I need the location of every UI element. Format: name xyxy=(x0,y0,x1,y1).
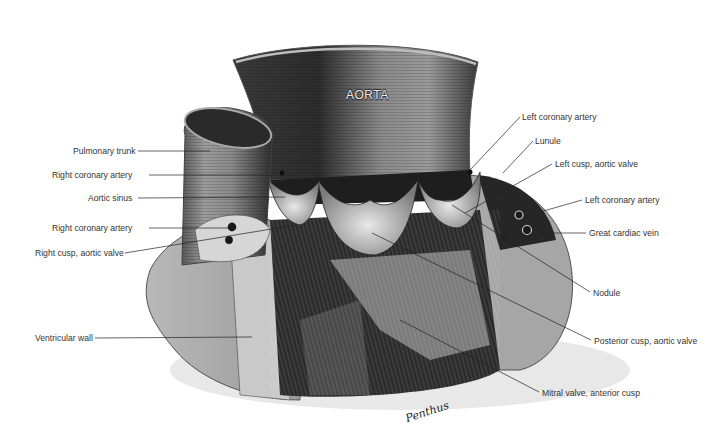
label-ventricular-wall: Ventricular wall xyxy=(35,333,93,343)
right-coronary-vessel-section xyxy=(225,236,234,245)
label-lunule: Lunule xyxy=(535,136,561,146)
left-coronary-ostium xyxy=(468,170,473,175)
left-coronary-artery-section xyxy=(515,211,523,219)
label-mitral-valve-anterior-cusp: Mitral valve, anterior cusp xyxy=(542,388,640,398)
label-nodule: Nodule xyxy=(593,288,620,298)
aorta-title: AORTA xyxy=(346,88,389,102)
great-cardiac-vein-section xyxy=(523,226,532,235)
label-great-cardiac-vein: Great cardiac vein xyxy=(589,228,659,238)
label-left-coronary-artery-upper: Left coronary artery xyxy=(522,112,597,122)
label-right-coronary-artery-upper: Right coronary artery xyxy=(52,170,132,180)
right-coronary-ostium xyxy=(280,171,285,176)
label-left-cusp-aortic-valve: Left cusp, aortic valve xyxy=(555,159,638,169)
label-pulmonary-trunk: Pulmonary trunk xyxy=(73,146,136,156)
right-coronary-artery-section xyxy=(227,222,237,232)
label-aortic-sinus: Aortic sinus xyxy=(88,193,132,203)
label-left-coronary-artery-lower: Left coronary artery xyxy=(585,195,660,205)
anatomy-figure: AORTA Pulmonary trunk Right coronary art… xyxy=(0,0,721,444)
label-right-coronary-artery-lower: Right coronary artery xyxy=(52,223,132,233)
heart-illustration xyxy=(0,0,721,444)
label-right-cusp-aortic-valve: Right cusp, aortic valve xyxy=(35,248,124,258)
label-posterior-cusp-aortic-valve: Posterior cusp, aortic valve xyxy=(594,336,697,346)
